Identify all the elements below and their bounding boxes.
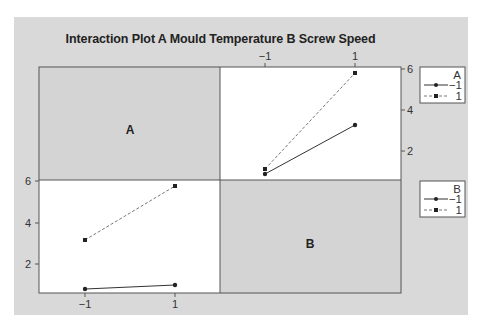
interaction-plot: A B −1 1 6 4 2 6 4 2 −1 1 [0, 0, 481, 333]
left-y-tick-2: 2 [25, 258, 31, 270]
right-y-axis: 6 4 2 [401, 63, 413, 157]
marker-circle [83, 287, 87, 291]
right-y-tick-2: 2 [407, 145, 413, 157]
left-y-tick-6: 6 [25, 175, 31, 187]
right-y-tick-4: 4 [407, 104, 413, 116]
marker-square [83, 238, 87, 242]
legend-a: A −1 1 [420, 67, 465, 103]
legend-circle-icon [434, 83, 438, 87]
top-x-axis: −1 1 [259, 50, 358, 67]
legend-b-entry-1: 1 [456, 204, 462, 216]
left-y-tick-4: 4 [25, 217, 31, 229]
left-y-axis: 6 4 2 [25, 175, 39, 270]
bottom-x-tick-1: 1 [172, 298, 178, 310]
panel-label-b: B [306, 237, 315, 251]
legend-square-icon [434, 208, 438, 212]
panel-label-a: A [126, 123, 135, 137]
legend-a-entry-1: 1 [456, 90, 462, 102]
legend-circle-icon [434, 197, 438, 201]
marker-circle [263, 172, 267, 176]
top-x-tick-1: 1 [352, 50, 358, 62]
legend-square-icon [434, 94, 438, 98]
marker-square [353, 71, 357, 75]
legend-b: B −1 1 [420, 181, 465, 217]
panel-bottom-left-plot [39, 180, 220, 293]
bottom-x-axis: −1 1 [79, 293, 178, 310]
marker-circle [173, 283, 177, 287]
top-x-tick-neg1: −1 [259, 50, 272, 62]
marker-circle [353, 123, 357, 127]
right-y-tick-6: 6 [407, 63, 413, 75]
marker-square [173, 184, 177, 188]
marker-square [263, 167, 267, 171]
bottom-x-tick-neg1: −1 [79, 298, 92, 310]
panel-top-right-plot [220, 67, 401, 180]
